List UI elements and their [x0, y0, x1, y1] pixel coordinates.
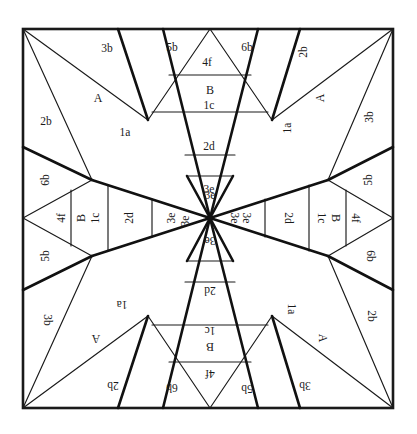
- region-label-center-wedges-2: 3e: [180, 216, 192, 227]
- region-label-left-band-3: 2d: [124, 212, 136, 224]
- region-label-center-wedges-3: 3e: [228, 213, 240, 224]
- region-label-upper-left-quadrant-1: A: [94, 92, 103, 104]
- region-label-lower-right-quadrant-2: 1a: [285, 304, 297, 315]
- region-label-lower-left-quadrant-3: 2b: [107, 379, 119, 391]
- region-label-lower-right-quadrant-1: A: [317, 334, 329, 343]
- region-label-bottom-center-band-3: 4f: [205, 367, 215, 379]
- region-label-left-band-0: 4f: [56, 213, 68, 223]
- region-label-right-band-1: 2d: [282, 212, 294, 224]
- region-label-lower-left-quadrant-0: 3b: [41, 314, 53, 326]
- region-label-left-band-2: 1c: [90, 213, 102, 224]
- region-label-upper-right-quadrant-0: 3b: [364, 111, 376, 123]
- region-label-upper-left-quadrant-2: 1a: [120, 127, 131, 139]
- region-label-right-band-2: 1c: [315, 213, 327, 224]
- region-label-bottom-center-band-0: 2d: [204, 284, 216, 296]
- region-label-upper-right-quadrant-3: 5b: [363, 174, 375, 186]
- region-label-right-band-0: 3e: [240, 213, 252, 224]
- region-label-upper-right-quadrant-1: A: [314, 94, 326, 103]
- region-label-upper-right-quadrant-2: 1a: [282, 123, 294, 134]
- region-label-right-band-4: 4f: [349, 213, 361, 223]
- region-label-bottom-center-band-1: 1c: [205, 324, 216, 336]
- region-label-center-wedges-0: 3e: [205, 190, 216, 202]
- diagram-canvas: 3b5b4f6b2bB1c2d3e2bA1a6b3bA1a5b4fB1c2d3e…: [0, 0, 417, 434]
- region-label-top-edge-0: 3b: [101, 43, 113, 55]
- region-label-top-edge-2: 4f: [202, 57, 212, 69]
- region-label-left-band-1: B: [75, 214, 87, 222]
- region-label-lower-right-quadrant-3: 3b: [299, 379, 311, 391]
- region-label-top-edge-4: 2b: [298, 46, 310, 58]
- region-label-top-center-band-1: 1c: [204, 100, 215, 112]
- region-label-top-center-band-2: 2d: [203, 141, 215, 153]
- region-label-bottom-edge-0: 6b: [166, 381, 178, 393]
- region-label-bottom-edge-1: 5b: [241, 382, 253, 394]
- region-label-lower-left-quadrant-1: A: [92, 333, 101, 345]
- region-label-left-band-5: 5b: [40, 250, 52, 262]
- region-label-center-wedges-1: 3e: [205, 234, 216, 246]
- region-label-upper-left-quadrant-0: 2b: [40, 116, 52, 128]
- region-label-top-edge-3: 6b: [241, 42, 253, 54]
- region-label-right-band-5: 6b: [364, 250, 376, 262]
- region-label-lower-left-quadrant-2: 1a: [117, 298, 128, 310]
- region-label-bottom-center-band-2: B: [206, 341, 214, 353]
- center-node-dot: [208, 216, 213, 221]
- region-label-right-band-3: B: [330, 214, 342, 222]
- region-label-lower-right-quadrant-0: 2b: [365, 310, 377, 322]
- region-label-top-center-band-0: B: [206, 84, 214, 96]
- region-label-top-edge-1: 5b: [166, 42, 178, 54]
- region-label-upper-left-quadrant-3: 6b: [40, 174, 52, 186]
- region-label-left-band-4: 3e: [166, 213, 178, 224]
